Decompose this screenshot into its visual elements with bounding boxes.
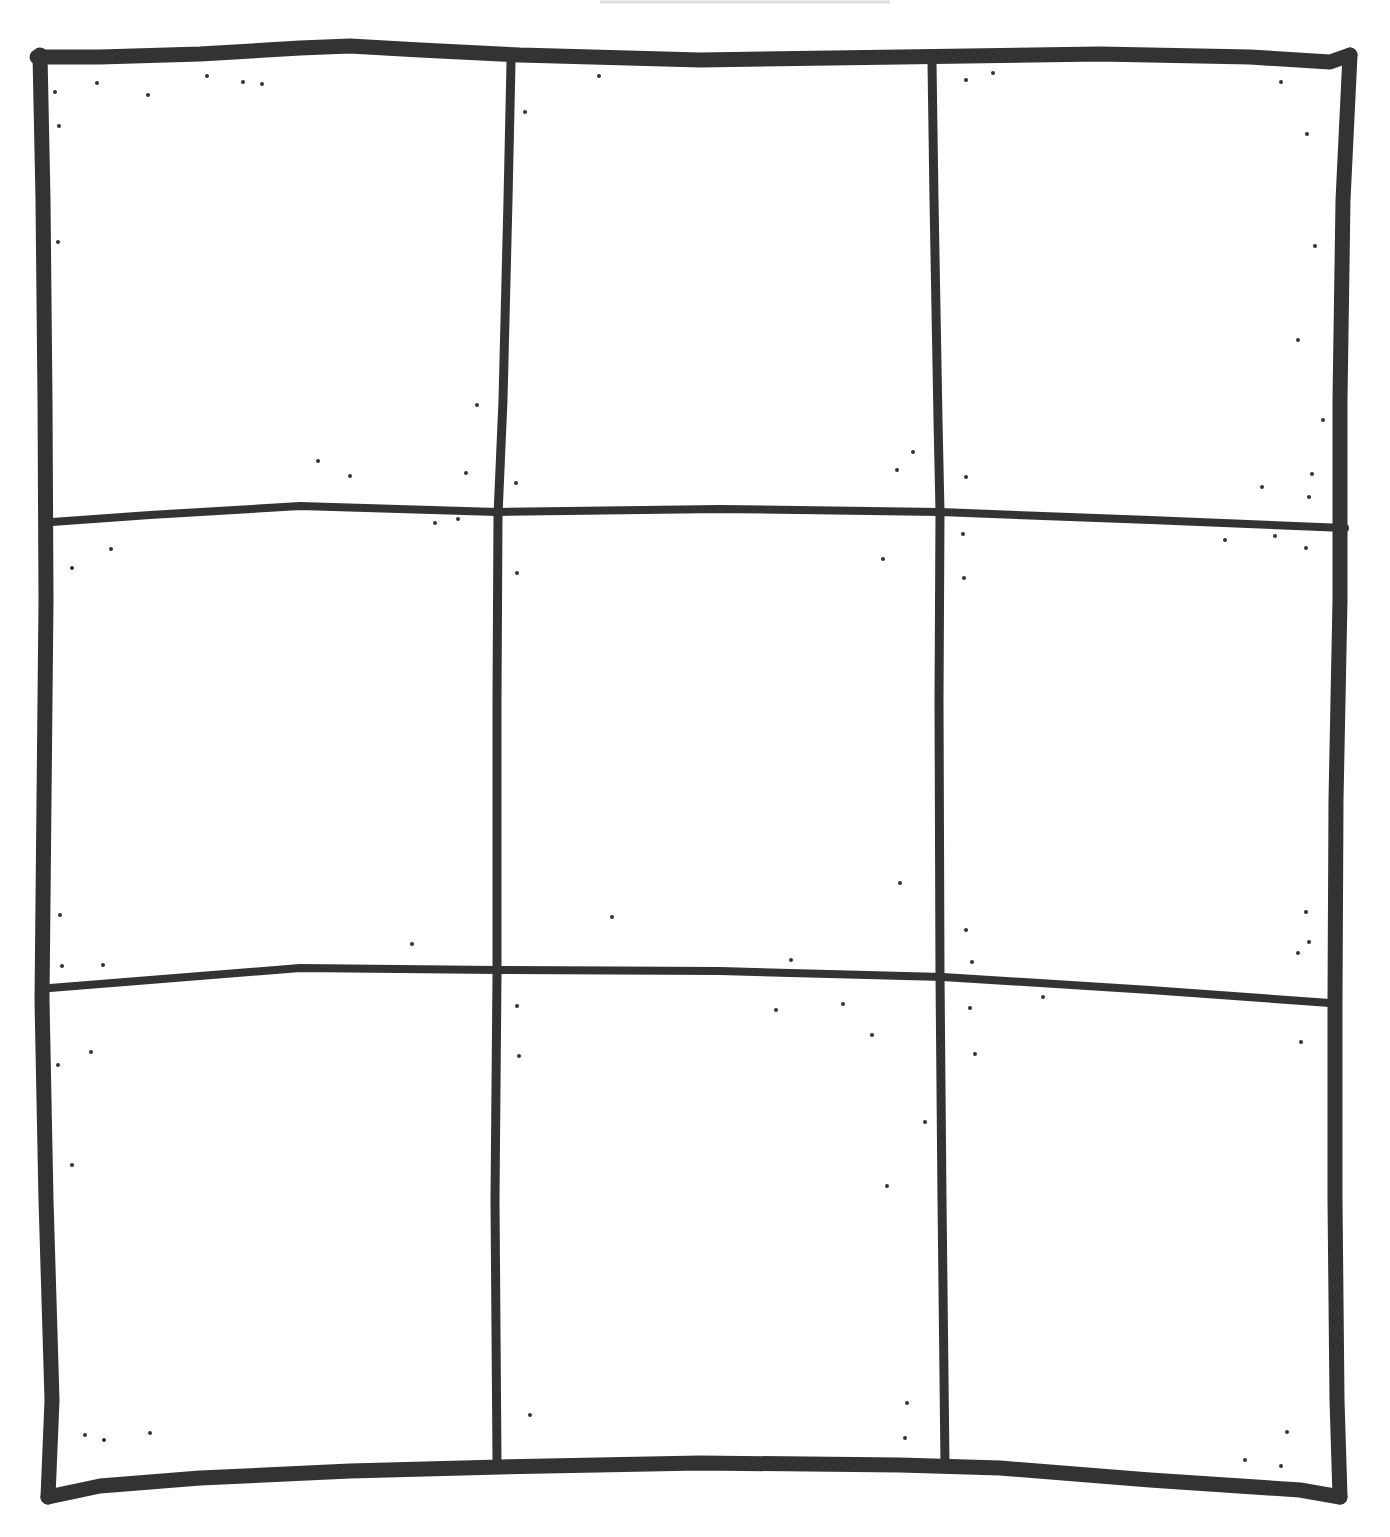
border-top	[37, 46, 1350, 62]
cell-r3-c2[interactable]	[503, 975, 941, 1465]
border-left	[40, 55, 52, 1497]
cell-r2-c1[interactable]	[52, 525, 495, 980]
cell-r1-c2[interactable]	[512, 65, 932, 510]
cell-r2-c2[interactable]	[505, 515, 935, 970]
cell-r2-c3[interactable]	[945, 520, 1330, 990]
cell-r1-c1[interactable]	[55, 65, 502, 520]
cell-r3-c3[interactable]	[950, 985, 1330, 1470]
cell-r3-c1[interactable]	[55, 975, 495, 1475]
border-right	[1335, 55, 1350, 1497]
cells	[52, 65, 1332, 1475]
tic-tac-toe-board	[0, 0, 1390, 1537]
cell-r1-c3[interactable]	[942, 65, 1332, 515]
